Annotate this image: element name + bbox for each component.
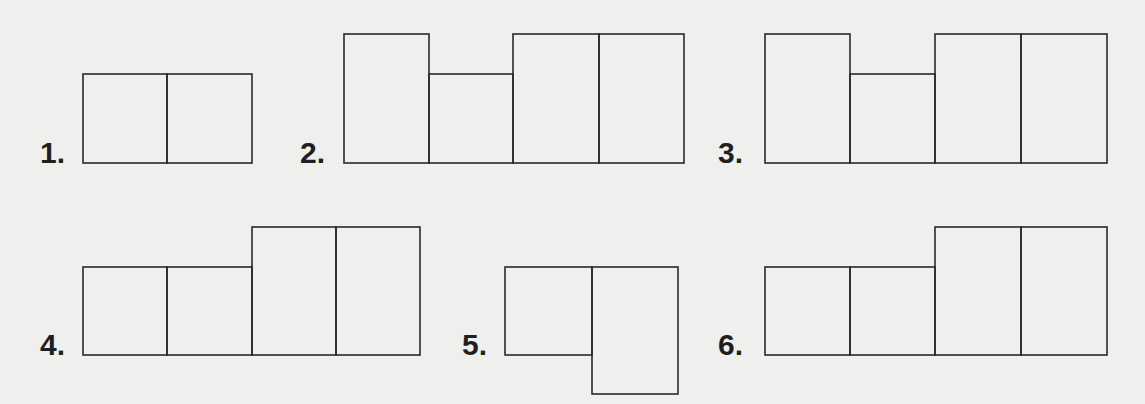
figure-1-square-1: [83, 74, 167, 163]
figure-3: [765, 34, 1107, 163]
figure-6-square-1: [765, 267, 850, 355]
figure-5-square-1: [505, 267, 592, 355]
figures-canvas: [0, 0, 1145, 404]
figure-4-square-1: [83, 267, 167, 355]
figure-4: [83, 227, 420, 355]
figure-6: [765, 227, 1107, 355]
figure-3-square-1: [765, 34, 850, 163]
figure-6-square-4: [1021, 227, 1107, 355]
figure-4-square-4: [336, 227, 420, 355]
figure-2-square-4: [599, 34, 684, 163]
figure-3-square-4: [1021, 34, 1107, 163]
figure-2-square-3: [513, 34, 599, 163]
figure-label-3: 3.: [718, 138, 743, 168]
figure-label-2: 2.: [300, 138, 325, 168]
figure-6-square-2: [850, 267, 935, 355]
figure-6-square-3: [935, 227, 1021, 355]
figure-label-6: 6.: [718, 330, 743, 360]
figure-1-square-2: [167, 74, 252, 163]
figure-2-square-1: [344, 34, 429, 163]
figure-2-square-2: [429, 74, 513, 163]
figure-label-5: 5.: [462, 330, 487, 360]
figure-3-square-2: [850, 74, 935, 163]
figure-label-1: 1.: [40, 138, 65, 168]
figure-3-square-3: [935, 34, 1021, 163]
figure-5-square-2: [592, 267, 678, 394]
figure-2: [344, 34, 684, 163]
figure-1: [83, 74, 252, 163]
figure-4-square-3: [252, 227, 336, 355]
figure-label-4: 4.: [40, 330, 65, 360]
figure-4-square-2: [167, 267, 252, 355]
figure-5: [505, 267, 678, 394]
